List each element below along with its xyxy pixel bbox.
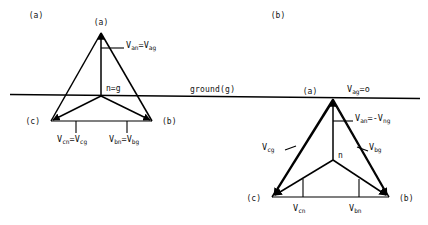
panel-b-vertex-b-label: (b) xyxy=(399,194,413,203)
phasor-b-vector xyxy=(101,96,150,120)
panel-b-v-ag-label: Vag=o xyxy=(347,84,370,96)
ground-label: ground(g) xyxy=(190,85,235,94)
panel-b-v-an-ng-label: Van=-Vng xyxy=(355,113,391,125)
voltage-phasor-diagram: (a) (b) ground(g) (a) (c) (b) n=g xyxy=(0,0,428,225)
panel-a-vertex-a-label: (a) xyxy=(94,18,108,27)
panel-b-v-cg-label: Vcg xyxy=(262,142,275,154)
panel-a-v-bn-bg-label: Vbn=Vbg xyxy=(109,134,140,146)
panel-b-v-bg-label: Vbg xyxy=(369,142,382,154)
panel-a-neutral-label: n=g xyxy=(106,84,121,93)
panel-b-v-bn-label: Vbn xyxy=(349,203,362,214)
panel-b-vertex-a-label: (a) xyxy=(303,87,317,96)
panel-b-vcg-leader xyxy=(285,146,296,150)
diagram-canvas: (a) (b) ground(g) (a) (c) (b) n=g xyxy=(0,0,428,225)
panel-b-group: (a) (c) (b) n Vag=o Van=-Vng Vcg Vbg xyxy=(247,84,414,214)
panel-b-vertex-c-label: (c) xyxy=(247,194,261,203)
caption-panel-b: (b) xyxy=(271,11,285,20)
panel-a-vertex-b-label: (b) xyxy=(162,117,176,126)
caption-panel-a: (a) xyxy=(29,11,43,20)
panel-a-v-cn-cg-label: Vcn=Vcg xyxy=(57,134,88,146)
panel-a-vertex-c-label: (c) xyxy=(26,117,40,126)
panel-b-neutral-label: n xyxy=(338,151,343,160)
phasor-c-vector xyxy=(53,96,101,120)
panel-b-v-cn-label: Vcn xyxy=(293,203,306,214)
panel-a-v-an-ag-label: Van=Vag xyxy=(126,40,157,52)
panel-a-group: (a) (c) (b) n=g Van=Vag Vcn=Vcg Vbn=Vbg xyxy=(26,18,177,146)
